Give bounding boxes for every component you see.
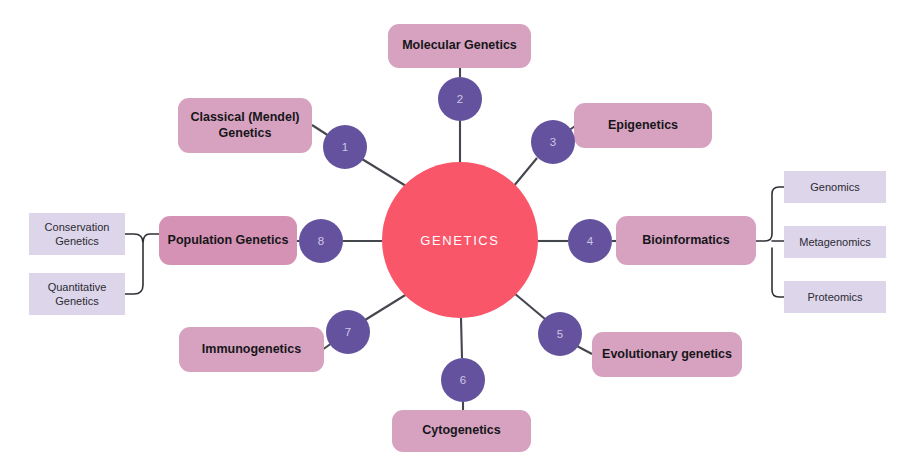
node-label: Molecular Genetics [402, 38, 517, 54]
leaf-label: Genomics [810, 180, 860, 194]
badge-2[interactable]: 2 [438, 77, 482, 121]
badge-number: 1 [342, 141, 348, 153]
spoke-6 [461, 318, 462, 358]
node-label: Classical (Mendel) Genetics [190, 110, 299, 141]
badge-4[interactable]: 4 [568, 219, 612, 263]
node-cytogenetics[interactable]: Cytogenetics [392, 410, 531, 452]
badge-7[interactable]: 7 [326, 310, 370, 354]
node-molecular-genetics[interactable]: Molecular Genetics [388, 24, 531, 68]
badge-number: 7 [345, 326, 351, 338]
node-label-line: Classical (Mendel) [190, 110, 299, 124]
badge-number: 8 [318, 235, 324, 247]
leaf-quantitative-genetics[interactable]: Quantitative Genetics [29, 273, 125, 315]
spoke-1 [362, 159, 406, 186]
leaf-label: Quantitative Genetics [48, 280, 107, 309]
node-population-genetics[interactable]: Population Genetics [159, 216, 297, 265]
leaf-genomics[interactable]: Genomics [784, 171, 886, 203]
leaf-metagenomics[interactable]: Metagenomics [784, 226, 886, 258]
hub-label: GENETICS [420, 233, 499, 248]
node-label: Immunogenetics [202, 342, 301, 358]
node-label: Epigenetics [608, 118, 678, 134]
spoke-5 [514, 293, 545, 319]
mindmap-canvas: GENETICS Classical (Mendel) Genetics 1 M… [0, 0, 912, 469]
badge-8[interactable]: 8 [299, 219, 343, 263]
badge-5[interactable]: 5 [538, 312, 582, 356]
badge-number: 4 [587, 235, 593, 247]
leaf-label-line: Genetics [55, 295, 98, 307]
node-label-line: Genetics [219, 126, 272, 140]
bracket-population [125, 234, 159, 294]
badge-number: 2 [457, 93, 463, 105]
badge-number: 3 [550, 136, 556, 148]
hub-genetics[interactable]: GENETICS [382, 162, 538, 318]
bracket-bioinformatics [756, 187, 784, 297]
leaf-label-line: Quantitative [48, 281, 107, 293]
node-bioinformatics[interactable]: Bioinformatics [616, 216, 756, 265]
leaf-label-line: Conservation [45, 221, 110, 233]
leaf-label: Proteomics [807, 290, 862, 304]
node-label: Population Genetics [168, 233, 289, 249]
leaf-label: Conservation Genetics [45, 220, 110, 249]
badge-number: 6 [460, 374, 466, 386]
badge-3[interactable]: 3 [531, 120, 575, 164]
node-classical-mendel-genetics[interactable]: Classical (Mendel) Genetics [178, 98, 312, 153]
node-epigenetics[interactable]: Epigenetics [574, 103, 712, 148]
badge-1[interactable]: 1 [323, 125, 367, 169]
node-label: Bioinformatics [642, 233, 730, 249]
leaf-conservation-genetics[interactable]: Conservation Genetics [29, 213, 125, 255]
spoke-3 [513, 158, 537, 187]
node-immunogenetics[interactable]: Immunogenetics [179, 327, 324, 372]
badge-6[interactable]: 6 [441, 358, 485, 402]
node-label: Evolutionary genetics [602, 347, 732, 363]
leaf-label-line: Genetics [55, 235, 98, 247]
spoke-7 [365, 294, 407, 320]
leaf-label: Metagenomics [799, 235, 871, 249]
leaf-proteomics[interactable]: Proteomics [784, 281, 886, 313]
node-evolutionary-genetics[interactable]: Evolutionary genetics [592, 332, 742, 377]
badge-number: 5 [557, 328, 563, 340]
node-label: Cytogenetics [422, 423, 501, 439]
